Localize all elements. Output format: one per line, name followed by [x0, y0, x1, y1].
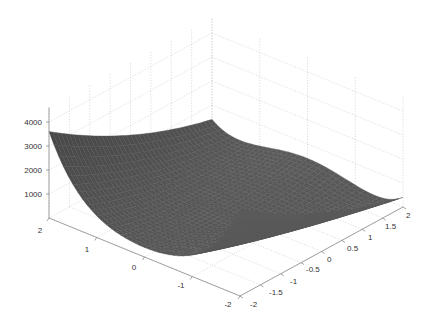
z-tick-label: 4000 [24, 118, 42, 127]
y-tick-label: -1 [290, 277, 298, 286]
surface-mesh [49, 119, 403, 256]
x-tick-label: 1 [85, 245, 90, 254]
surface-plot: 4000 3000 2000 1000 2 1 0 -1 -2 -2 -1.5 … [0, 0, 432, 326]
y-tick-label: -0.5 [306, 265, 320, 274]
y-tick-label: -1.5 [269, 288, 283, 297]
z-axis-ticks: 4000 3000 2000 1000 [24, 118, 42, 199]
x-tick-label: -1 [177, 281, 185, 290]
x-tick-label: 0 [132, 263, 137, 272]
y-tick-label: -2 [250, 300, 258, 309]
y-tick-label: 0 [327, 255, 332, 264]
y-tick-label: 1 [368, 233, 373, 242]
z-tick-label: 3000 [24, 142, 42, 151]
y-tick-label: 1.5 [385, 222, 397, 231]
z-tick-label: 1000 [24, 190, 42, 199]
y-tick-label: 0.5 [347, 244, 359, 253]
x-tick-label: -2 [224, 300, 232, 309]
y-tick-label: 2 [406, 211, 411, 220]
z-tick-label: 2000 [24, 166, 42, 175]
x-tick-label: 2 [38, 226, 43, 235]
